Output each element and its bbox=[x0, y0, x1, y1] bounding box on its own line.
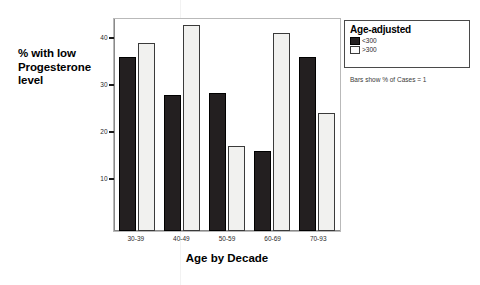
bar-40-49-<300[interactable] bbox=[164, 95, 181, 231]
y-axis-tick-mark bbox=[109, 84, 114, 86]
y-axis-title-line-2: Progesterone bbox=[18, 61, 113, 75]
legend-item-lt300[interactable]: <300 bbox=[350, 37, 464, 45]
legend-label-gt300: >300 bbox=[362, 46, 377, 54]
bar-group-50-59 bbox=[204, 19, 249, 231]
bar-group-30-39 bbox=[114, 19, 159, 231]
plot-area: 10203040 bbox=[113, 18, 341, 232]
legend-item-gt300[interactable]: >300 bbox=[350, 46, 464, 54]
y-axis-tick-40: 40 bbox=[82, 33, 114, 43]
bar-50-59-<300[interactable] bbox=[209, 93, 226, 231]
legend-swatch-dark-icon bbox=[350, 37, 360, 45]
bar-60-69-<300[interactable] bbox=[254, 151, 271, 231]
x-axis-tick-label-70-93: 70-93 bbox=[288, 235, 348, 242]
y-axis-title-line-1: % with low bbox=[18, 47, 113, 61]
y-axis-tick-label: 40 bbox=[100, 34, 107, 41]
bar-50-59->300[interactable] bbox=[228, 146, 245, 231]
bar-40-49->300[interactable] bbox=[183, 25, 200, 231]
bar-30-39-<300[interactable] bbox=[119, 57, 136, 231]
y-axis-tick-mark bbox=[109, 131, 114, 133]
y-axis-tick-20: 20 bbox=[82, 127, 114, 137]
legend-title: Age-adjusted bbox=[350, 24, 464, 36]
bar-30-39->300[interactable] bbox=[138, 43, 155, 231]
chart-footnote: Bars show % of Cases = 1 bbox=[350, 76, 426, 83]
y-axis-tick-label: 10 bbox=[100, 175, 107, 182]
y-axis-tick-mark bbox=[109, 178, 114, 180]
bar-70-93->300[interactable] bbox=[318, 113, 335, 231]
bar-group-40-49 bbox=[159, 19, 204, 231]
plot-inner: 10203040 bbox=[114, 19, 340, 231]
bar-groups bbox=[114, 19, 340, 231]
bar-60-69->300[interactable] bbox=[273, 33, 290, 231]
bar-70-93-<300[interactable] bbox=[299, 57, 316, 231]
bar-chart-figure: % with low Progesterone level 10203040 3… bbox=[0, 0, 480, 285]
y-axis-tick-10: 10 bbox=[82, 174, 114, 184]
y-axis-tick-mark bbox=[109, 37, 114, 39]
x-axis-title: Age by Decade bbox=[113, 252, 341, 264]
y-axis-tick-label: 20 bbox=[100, 128, 107, 135]
legend: Age-adjusted <300 >300 bbox=[344, 20, 470, 68]
bar-group-70-93 bbox=[295, 19, 340, 231]
legend-swatch-light-icon bbox=[350, 46, 360, 54]
y-axis-tick-30: 30 bbox=[82, 80, 114, 90]
bar-group-60-69 bbox=[250, 19, 295, 231]
y-axis-tick-label: 30 bbox=[100, 81, 107, 88]
legend-label-lt300: <300 bbox=[362, 37, 377, 45]
